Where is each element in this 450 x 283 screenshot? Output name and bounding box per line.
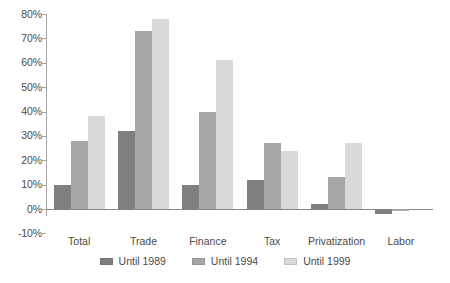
y-axis-tick-label: 40% — [4, 106, 42, 117]
y-axis-tick-label: 60% — [4, 57, 42, 68]
bar — [135, 31, 152, 209]
y-axis-tick — [42, 136, 46, 137]
bar-group: Total — [47, 14, 111, 254]
y-axis-tick — [42, 112, 46, 113]
y-axis-tick — [42, 14, 46, 15]
bar — [216, 60, 233, 209]
bar — [54, 185, 71, 209]
bar — [345, 143, 362, 209]
bar — [375, 209, 392, 214]
y-axis-tick — [42, 38, 46, 39]
y-axis-tick — [42, 209, 46, 210]
bar — [247, 180, 264, 209]
y-axis-tick — [42, 87, 46, 88]
legend-swatch-icon — [100, 258, 113, 265]
legend-label: Until 1999 — [303, 256, 350, 267]
y-axis-tick — [42, 160, 46, 161]
bar — [199, 112, 216, 210]
bar — [152, 19, 169, 209]
y-axis-tick — [42, 185, 46, 186]
chart-legend: Until 1989Until 1994Until 1999 — [0, 256, 450, 267]
legend-item[interactable]: Until 1999 — [284, 256, 350, 267]
bar — [88, 116, 105, 209]
y-axis-tick-label: 70% — [4, 33, 42, 44]
y-axis-tick-label: 30% — [4, 130, 42, 141]
legend-label: Until 1994 — [211, 256, 258, 267]
bar — [264, 143, 281, 209]
y-axis-tick-label: 20% — [4, 155, 42, 166]
bar-groups: TotalTradeFinanceTaxPrivatizationLabor — [47, 14, 433, 254]
x-axis-category-label: Labor — [351, 236, 450, 247]
bar — [392, 209, 409, 211]
y-axis-tick — [42, 233, 46, 234]
legend-swatch-icon — [192, 258, 205, 265]
bar — [118, 131, 135, 209]
bar-chart: 80%70%60%50%40%30%20%10%0%-10% TotalTrad… — [0, 0, 450, 283]
bar-group: Trade — [111, 14, 175, 254]
bar — [281, 151, 298, 210]
y-axis-tick-label: 0% — [4, 204, 42, 215]
y-axis-tick-label: 80% — [4, 9, 42, 20]
bar-group: Tax — [240, 14, 304, 254]
legend-swatch-icon — [284, 258, 297, 265]
legend-item[interactable]: Until 1989 — [100, 256, 166, 267]
bar-group: Labor — [369, 14, 433, 254]
y-axis-tick-label: 10% — [4, 179, 42, 190]
legend-item[interactable]: Until 1994 — [192, 256, 258, 267]
bar — [71, 141, 88, 209]
bar-group: Privatization — [304, 14, 368, 254]
legend-label: Until 1989 — [119, 256, 166, 267]
y-axis-tick-label: 50% — [4, 82, 42, 93]
bar — [328, 177, 345, 209]
bar — [182, 185, 199, 209]
bar-group: Finance — [176, 14, 240, 254]
bar — [311, 204, 328, 209]
y-axis-tick — [42, 63, 46, 64]
